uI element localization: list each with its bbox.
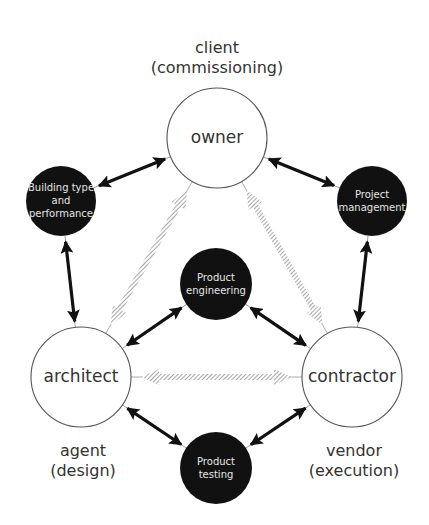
node-label-product-engineering: engineering [186,285,246,296]
node-label-project-management: management [339,202,406,213]
nodes-layer: ownerarchitectcontractorBuilding typeand… [26,88,407,504]
solid-arrow-building-type-architect [66,242,75,322]
node-label-product-engineering: Product [197,272,235,283]
node-label-product-testing: Product [197,456,235,467]
solid-arrow-architect-product-engineering [127,308,181,345]
solid-arrow-owner-building-type [99,159,165,186]
node-label-architect: architect [43,366,118,386]
relationship-diagram: ownerarchitectcontractorBuilding typeand… [0,0,429,525]
node-project-management: Projectmanagement [337,166,407,236]
node-owner: owner [167,88,267,188]
solid-arrow-project-management-contractor [358,242,367,322]
hatched-arrow-owner-contractor [247,190,323,325]
solid-arrow-owner-project-management [269,159,334,185]
solid-arrow-architect-product-testing [127,408,181,444]
node-label-contractor: contractor [308,366,396,386]
node-building-type: Building typeandperformance [26,166,96,236]
node-label-building-type: and [52,195,71,206]
solid-arrow-contractor-product-engineering [251,308,306,346]
node-product-testing: Producttesting [180,432,252,504]
node-contractor: contractor [302,327,402,427]
node-label-building-type: Building type [28,182,94,193]
node-architect: architect [31,327,131,427]
hatched-arrow-owner-architect [111,190,188,325]
hatched-arrow-architect-contractor [141,369,292,385]
node-label-owner: owner [191,127,244,147]
node-label-product-testing: testing [199,469,234,480]
node-label-building-type: performance [29,208,93,219]
solid-arrow-contractor-product-testing [251,408,306,445]
node-product-engineering: Productengineering [180,248,252,320]
node-label-project-management: Project [355,189,389,200]
